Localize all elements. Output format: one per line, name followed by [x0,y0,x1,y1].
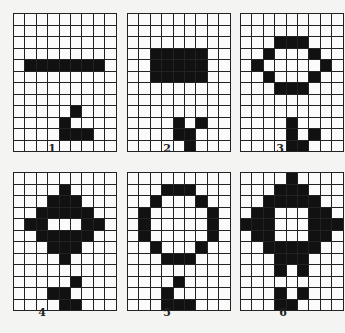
grid-cell [252,72,262,83]
grid-cell [82,141,92,152]
grid-cell [174,196,184,207]
grid-cell [185,72,195,83]
grid-cell [151,26,161,37]
grid-cell [287,173,297,184]
grid-cell [139,231,149,242]
grid-cell [94,196,104,207]
grid-cell [139,14,149,25]
grid-cell [208,242,218,253]
grid-cell [25,60,35,71]
grid-cell [241,254,251,265]
grid-cell [82,83,92,94]
grid-cell [60,196,70,207]
grid-cell [208,265,218,276]
grid-cell [128,219,138,230]
grid-cell [208,185,218,196]
grid-cell [196,231,206,242]
grid-cell [208,129,218,140]
grid-cell [105,141,115,152]
grid-cell [174,173,184,184]
grid-cell [174,37,184,48]
grid-cell [196,72,206,83]
grid-cell [60,106,70,117]
grid-cell [71,106,81,117]
panel-number-label: 2 [157,142,177,155]
grid-panel-1 [13,13,117,152]
grid-cell [14,141,24,152]
grid-cell [252,208,262,219]
grid-cell [309,72,319,83]
grid-cell [287,185,297,196]
grid-cell [94,141,104,152]
grid-cell [321,129,331,140]
grid-cell [14,83,24,94]
grid-cell [287,242,297,253]
grid-cell [321,60,331,71]
grid-cell [208,141,218,152]
grid-cell [309,173,319,184]
pixel-grid [240,13,344,152]
grid-cell [71,231,81,242]
grid-cell [94,242,104,253]
grid-cell [252,288,262,299]
grid-cell [241,60,251,71]
grid-cell [37,37,47,48]
grid-cell [309,219,319,230]
grid-cell [162,173,172,184]
grid-cell [275,83,285,94]
grid-cell [60,265,70,276]
grid-cell [139,254,149,265]
grid-cell [275,72,285,83]
grid-cell [208,95,218,106]
grid-cell [14,208,24,219]
grid-cell [162,26,172,37]
grid-cell [174,219,184,230]
grid-cell [94,129,104,140]
grid-cell [241,219,251,230]
grid-cell [82,196,92,207]
grid-cell [174,129,184,140]
grid-cell [128,83,138,94]
grid-cell [321,26,331,37]
grid-cell [208,219,218,230]
grid-cell [82,72,92,83]
grid-cell [196,208,206,219]
grid-cell [287,265,297,276]
grid-cell [321,72,331,83]
grid-cell [185,129,195,140]
grid-cell [139,106,149,117]
grid-cell [332,288,342,299]
grid-cell [185,106,195,117]
grid-cell [105,26,115,37]
grid-cell [128,231,138,242]
grid-cell [139,118,149,129]
grid-cell [332,265,342,276]
grid-cell [208,118,218,129]
grid-cell [82,26,92,37]
grid-cell [252,49,262,60]
grid-cell [208,49,218,60]
grid-cell [60,231,70,242]
grid-cell [196,37,206,48]
grid-cell [71,26,81,37]
grid-cell [287,14,297,25]
grid-cell [128,37,138,48]
grid-cell [174,231,184,242]
grid-cell [48,265,58,276]
grid-cell [60,49,70,60]
grid-cell [71,254,81,265]
grid-cell [71,14,81,25]
grid-cell [25,49,35,60]
grid-cell [139,173,149,184]
grid-cell [48,288,58,299]
grid-cell [37,185,47,196]
grid-cell [287,49,297,60]
grid-cell [60,26,70,37]
grid-cell [60,129,70,140]
grid-cell [298,173,308,184]
grid-cell [128,118,138,129]
grid-cell [82,242,92,253]
grid-cell [309,141,319,152]
grid-cell [105,231,115,242]
grid-cell [208,288,218,299]
